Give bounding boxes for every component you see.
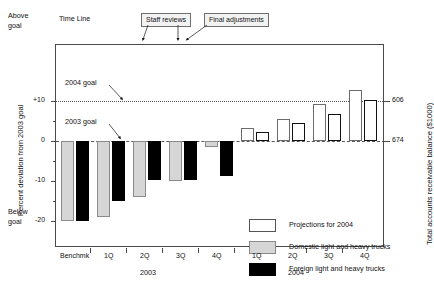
ytick-label-minus20: -20 [35, 216, 45, 223]
plot-area: 2004 goal 2003 goal Projections for 2004… [55, 44, 384, 247]
xtick-label-3q-2003: 3Q [176, 252, 185, 259]
xtick-label-1q-2004: 1Q [252, 252, 261, 259]
legend-swatch-projections [249, 219, 276, 232]
xtick-label-1q-2003: 1Q [104, 252, 113, 259]
xtick-5 [234, 248, 235, 253]
below-goal-label-line1: Below [8, 207, 28, 216]
ytick-right-674 [385, 141, 390, 142]
xtick-label-4q-2003: 4Q [212, 252, 221, 259]
goal-annotation-arrows [56, 45, 385, 248]
xtick-label-benchmk: Benchmk [60, 252, 89, 259]
ytick-label-plus10: +10 [33, 96, 45, 103]
below-goal-label-line2: goal [8, 217, 22, 226]
ytick-label-minus10: -10 [35, 176, 45, 183]
ytick-label-606: 606 [392, 96, 404, 103]
xtick-label-3q-2004: 3Q [324, 252, 333, 259]
xtick-1 [90, 248, 91, 253]
xtick-label-4q-2004: 4Q [360, 252, 369, 259]
xtick-3 [162, 248, 163, 253]
legend-label-projections: Projections for 2004 [289, 220, 353, 229]
ytick-right-606 [385, 101, 390, 102]
ytick-label-674: 674 [392, 136, 404, 143]
y-axis-right-title: Total accounts receivable balance ($1000… [425, 103, 434, 245]
y-axis-left-title: Percent deviation from 2003 goal [16, 105, 25, 216]
xtick-label-2q-2003: 2Q [140, 252, 149, 259]
xtick-label-2q-2004: 2Q [288, 252, 297, 259]
legend-label-domestic: Domestic light and heavy trucks [289, 242, 390, 251]
legend-swatch-foreign [249, 263, 276, 276]
xtick-4 [198, 248, 199, 253]
period-label-2004: 2004 [288, 268, 304, 277]
ytick-label-0: 0 [41, 136, 45, 143]
xtick-2 [126, 248, 127, 253]
period-label-2003: 2003 [140, 268, 156, 277]
